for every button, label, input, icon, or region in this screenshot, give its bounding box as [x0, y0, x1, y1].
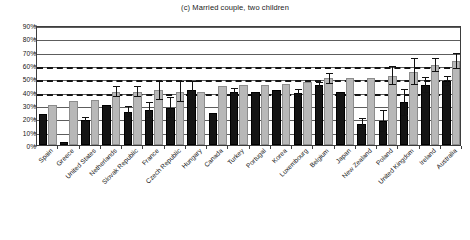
bar-light-series-ireland — [431, 65, 440, 145]
x-axis-tick-mark — [312, 146, 313, 149]
x-axis: SpainGreeceUnited StatesNetherlandsSlova… — [36, 147, 461, 207]
error-bar — [329, 73, 330, 84]
x-axis-tick-mark — [185, 146, 186, 149]
gridline — [37, 107, 460, 108]
error-bar-cap — [295, 89, 302, 90]
plot-area — [36, 26, 461, 146]
x-axis-tick-mark — [57, 146, 58, 149]
bar-light-series-portugal — [261, 85, 270, 145]
bar-light-series-slovak-republic — [133, 92, 142, 145]
error-bar — [298, 89, 299, 97]
x-axis-label-canada: Canada — [203, 147, 224, 168]
error-bar — [128, 106, 129, 117]
x-axis-tick-mark — [419, 146, 420, 149]
error-bar — [85, 117, 86, 122]
error-bar — [116, 86, 117, 97]
x-axis-label-ireland: Ireland — [417, 147, 436, 166]
y-axis-tick-label: 10% — [2, 129, 36, 136]
error-bar — [137, 86, 138, 97]
x-axis-tick-mark — [142, 146, 143, 149]
x-axis-label-korea: Korea — [270, 147, 287, 164]
error-bar-cap — [167, 97, 174, 98]
error-bar-cap — [359, 128, 366, 129]
x-axis-label-belgium: Belgium — [309, 147, 331, 169]
error-bar-cap — [432, 71, 439, 72]
x-axis-tick-mark — [376, 146, 377, 149]
error-bar — [170, 97, 171, 118]
bar-light-series-belgium — [324, 78, 333, 145]
bar-light-series-australia — [452, 61, 461, 145]
error-bar — [425, 77, 426, 93]
error-bar-cap — [326, 73, 333, 74]
bar-dark-series-luxembourg — [294, 93, 303, 145]
error-bar-cap — [422, 92, 429, 93]
bar-dark-series-japan — [336, 92, 345, 145]
error-bar — [435, 58, 436, 71]
x-axis-tick-mark — [355, 146, 356, 149]
bar-light-series-korea — [282, 84, 291, 145]
bar-dark-series-korea — [272, 90, 281, 145]
reference-line — [37, 94, 460, 96]
error-bar-cap — [411, 58, 418, 59]
gridline — [37, 40, 460, 41]
error-bar-cap — [113, 86, 120, 87]
x-axis-label-turkey: Turkey — [226, 147, 245, 166]
error-bar-cap — [134, 96, 141, 97]
error-bar — [383, 110, 384, 131]
error-bar-cap — [177, 101, 184, 102]
x-axis-tick-mark — [100, 146, 101, 149]
bar-dark-series-belgium — [315, 85, 324, 145]
error-bar — [392, 66, 393, 85]
error-bar-cap — [316, 82, 323, 83]
bar-light-series-hungary — [197, 92, 206, 145]
bar-light-series-japan — [346, 78, 355, 145]
error-bar-cap — [125, 116, 132, 117]
y-axis-tick-label: 70% — [2, 49, 36, 56]
x-axis-tick-mark — [440, 146, 441, 149]
error-bar-cap — [295, 96, 302, 97]
reference-line — [37, 80, 460, 82]
error-bar-cap — [453, 68, 460, 69]
y-axis-tick-label: 80% — [2, 36, 36, 43]
error-bar-cap — [156, 81, 163, 82]
bar-light-series-luxembourg — [303, 82, 312, 145]
x-axis-label-poland: Poland — [375, 147, 394, 166]
error-bar-cap — [411, 84, 418, 85]
x-axis-tick-mark — [397, 146, 398, 149]
gridline — [37, 120, 460, 121]
bar-light-series-united-states — [91, 100, 100, 145]
bar-light-series-spain — [48, 105, 57, 145]
error-bar-cap — [326, 83, 333, 84]
bar-light-series-greece — [69, 101, 78, 145]
bar-light-series-canada — [218, 86, 227, 145]
bar-dark-series-australia — [442, 81, 451, 145]
y-axis-tick-label: 60% — [2, 63, 36, 70]
bar-dark-series-canada — [209, 113, 218, 145]
bar-dark-series-turkey — [230, 92, 239, 145]
bar-dark-series-spain — [39, 114, 48, 145]
bar-light-series-netherlands — [112, 92, 121, 145]
error-bar-cap — [189, 99, 196, 100]
error-bar-cap — [231, 95, 238, 96]
error-bar-cap — [231, 88, 238, 89]
y-axis-tick-label: 50% — [2, 76, 36, 83]
error-bar-cap — [422, 77, 429, 78]
error-bar — [404, 89, 405, 116]
error-bar — [180, 81, 181, 102]
error-bar-cap — [389, 84, 396, 85]
bar-light-series-poland — [388, 76, 397, 145]
error-bar-cap — [82, 121, 89, 122]
bar-light-series-new-zealand — [367, 78, 376, 145]
bar-dark-series-netherlands — [102, 105, 111, 145]
error-bar-cap — [444, 85, 451, 86]
error-bar-cap — [380, 131, 387, 132]
gridline — [37, 134, 460, 135]
error-bar — [234, 88, 235, 96]
bar-dark-series-ireland — [421, 85, 430, 145]
error-bar-cap — [453, 53, 460, 54]
bar-dark-series-portugal — [251, 92, 260, 145]
error-bar-cap — [125, 106, 132, 107]
x-axis-label-greece: Greece — [55, 147, 75, 167]
y-axis: 0%10%20%30%40%50%60%70%80%90% — [0, 26, 36, 146]
y-axis-tick-label: 30% — [2, 103, 36, 110]
